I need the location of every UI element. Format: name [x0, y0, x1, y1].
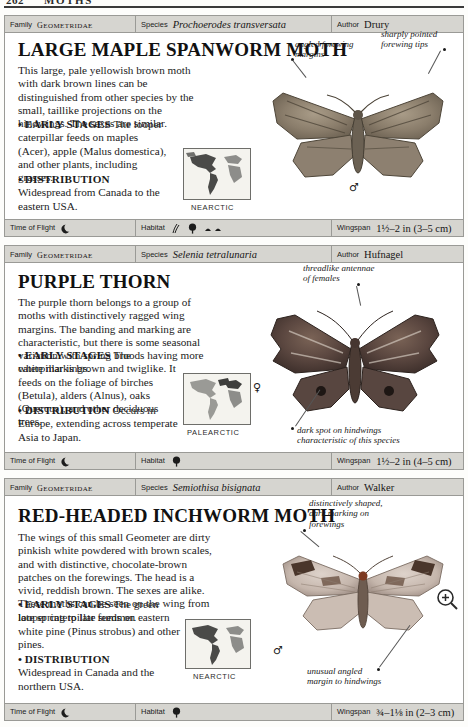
- family-label: Family: [10, 250, 32, 259]
- bullet-icon: •: [18, 118, 25, 130]
- distribution-map: [183, 373, 251, 425]
- common-name: PURPLE THORN: [18, 271, 170, 293]
- world-map-graphic: [184, 149, 250, 199]
- distribution-text: • DISTRIBUTION Widespread from Canada to…: [18, 173, 168, 213]
- purple-thorn-illustration: [255, 291, 451, 437]
- annotation-leader-dot: [377, 668, 380, 671]
- author-cell: Author Hufnagel: [332, 246, 463, 262]
- wingspan-value: 1½–2 in (3–5 cm): [376, 223, 451, 234]
- distribution-text: • DISTRIBUTION Widespread in Canada and …: [18, 653, 188, 693]
- wingspan-label: Wingspan: [337, 708, 370, 716]
- grassland-icon: [171, 223, 181, 234]
- taxonomy-bar: Family GEOMETRIDAE Species Selenia tetra…: [5, 246, 463, 263]
- bullet-icon: •: [18, 349, 25, 361]
- night-moon-icon: [61, 456, 72, 467]
- map-caption: NEARCTIC: [191, 203, 234, 212]
- habitat-cell: Habitat: [136, 453, 332, 469]
- annotation-label: angled forewing margins: [295, 39, 353, 60]
- wingspan-label: Wingspan: [337, 457, 370, 465]
- family-cell: Family GEOMETRIDAE: [5, 16, 136, 32]
- early-stages-text: • EARLY STAGES The green looper caterpil…: [18, 598, 188, 651]
- family-cell: Family GEOMETRIDAE: [5, 479, 136, 495]
- author-value: Drury: [364, 19, 389, 30]
- common-name: RED-HEADED INCHWORM MOTH: [18, 505, 335, 527]
- deciduous-tree-icon: [171, 707, 182, 718]
- entry-content: PURPLE THORN The purple thorn belongs to…: [5, 263, 463, 452]
- early-stages-label: EARLY STAGES: [25, 349, 111, 361]
- time-of-flight-icons: [61, 707, 72, 718]
- distribution-body: Widespread from Canada to the eastern US…: [18, 186, 160, 211]
- magnifier-icon[interactable]: [436, 588, 458, 610]
- wingspan-cell: Wingspan 1½–2 in (4–5 cm): [332, 453, 463, 469]
- family-value: GEOMETRIDAE: [37, 18, 93, 30]
- author-label: Author: [337, 250, 359, 259]
- habitat-cell: Habitat: [136, 704, 332, 720]
- species-value: Prochoerodes transversata: [173, 19, 286, 30]
- species-entry: Family GEOMETRIDAE Species Selenia tetra…: [4, 245, 464, 470]
- author-cell: Author Walker: [332, 479, 463, 495]
- header-rule: [4, 6, 464, 8]
- habitat-label: Habitat: [141, 224, 165, 232]
- time-of-flight-label: Time of Flight: [10, 457, 55, 465]
- habitat-cell: Habitat: [136, 220, 332, 236]
- annotation-label: distinctively shaped, dark marking on fo…: [309, 498, 382, 529]
- habitat-icons: [171, 456, 182, 467]
- annotation-leader-dot: [303, 529, 306, 532]
- night-moon-icon: [61, 707, 72, 718]
- map-caption: NEARCTIC: [193, 672, 236, 681]
- family-label: Family: [10, 20, 32, 29]
- author-value: Walker: [364, 482, 394, 493]
- time-of-flight-label: Time of Flight: [10, 708, 55, 716]
- wingspan-value: 1½–2 in (4–5 cm): [376, 456, 451, 467]
- deciduous-tree-icon: [171, 456, 182, 467]
- distribution-map: [183, 148, 251, 200]
- bullet-icon: •: [18, 173, 25, 185]
- annotation-label: dark spot on hindwings characteristic of…: [297, 425, 400, 446]
- early-stages-label: EARLY STAGES: [25, 118, 111, 130]
- distribution-label: DISTRIBUTION: [25, 173, 110, 185]
- moth-specimen-image: [273, 534, 453, 662]
- annotation-leader-dot: [357, 283, 360, 286]
- species-entry: Family GEOMETRIDAE Species Prochoerodes …: [4, 15, 464, 237]
- time-of-flight-cell: Time of Flight: [5, 220, 136, 236]
- male-symbol-icon: ♂: [349, 181, 359, 194]
- species-cell: Species Selenia tetralunaria: [136, 246, 332, 262]
- annotation-label: unusual angled margin to hindwings: [307, 666, 381, 687]
- world-map-graphic: [186, 620, 250, 668]
- bullet-icon: •: [18, 653, 25, 665]
- species-label: Species: [141, 20, 168, 29]
- time-of-flight-label: Time of Flight: [10, 224, 55, 232]
- time-of-flight-cell: Time of Flight: [5, 704, 136, 720]
- species-entry: Family GEOMETRIDAE Species Semiothisa bi…: [4, 478, 464, 721]
- family-label: Family: [10, 483, 32, 492]
- scrub-icon: [204, 224, 224, 232]
- bullet-icon: •: [18, 598, 25, 610]
- wingspan-cell: Wingspan 1½–2 in (3–5 cm): [332, 220, 463, 236]
- annotation-leader-dot: [443, 48, 446, 51]
- species-value: Selenia tetralunaria: [173, 249, 257, 260]
- species-label: Species: [141, 483, 168, 492]
- map-caption: PALEARCTIC: [187, 428, 240, 437]
- distribution-label: DISTRIBUTION: [25, 404, 110, 416]
- annotation-label: sharply pointed forewing tips: [381, 29, 437, 50]
- author-label: Author: [337, 20, 359, 29]
- world-map-graphic: [184, 374, 250, 424]
- moth-specimen-image: [255, 291, 451, 437]
- taxonomy-bar: Family GEOMETRIDAE Species Semiothisa bi…: [5, 479, 463, 496]
- wingspan-label: Wingspan: [337, 224, 370, 232]
- data-bar: Time of Flight Habitat Wingspan: [5, 452, 463, 469]
- data-bar: Time of Flight Habitat Wingspan: [5, 703, 463, 720]
- night-moon-icon: [61, 223, 72, 234]
- time-of-flight-icons: [61, 223, 72, 234]
- field-guide-page: 262 MOTHS Family GEOMETRIDAE Species Pro…: [0, 0, 468, 727]
- red-headed-inchworm-moth-illustration: [273, 534, 453, 662]
- entry-content: RED-HEADED INCHWORM MOTH The wings of th…: [5, 496, 463, 703]
- running-head: 262 MOTHS: [0, 0, 468, 9]
- data-bar: Time of Flight Habitat: [5, 219, 463, 236]
- early-stages-label: EARLY STAGES: [25, 598, 111, 610]
- wingspan-cell: Wingspan ¾–1⅛ in (2–3 cm): [332, 704, 463, 720]
- female-symbol-icon: ♀: [253, 381, 261, 394]
- magnifier-zoom-cursor[interactable]: [436, 588, 458, 614]
- deciduous-tree-icon: [187, 223, 198, 234]
- annotation-label: threadlike antennae of females: [303, 263, 374, 284]
